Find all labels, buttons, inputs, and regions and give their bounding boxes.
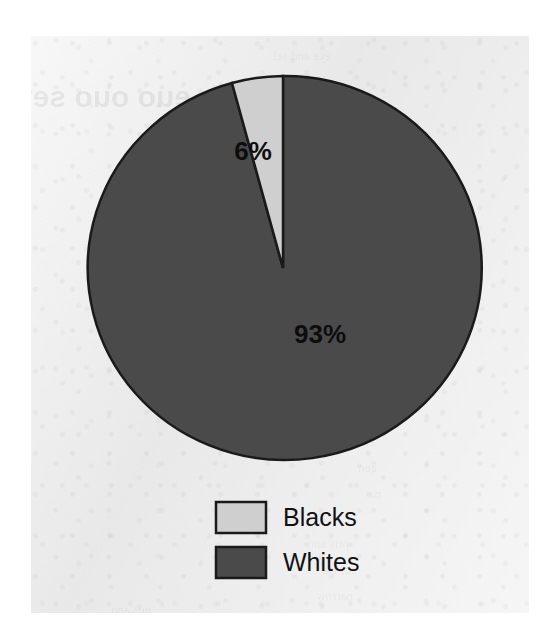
legend-item-blacks[interactable]: Blacks bbox=[216, 502, 357, 533]
pie-chart: 6% 93% Blacks Whites bbox=[31, 36, 529, 613]
chart-legend: Blacks Whites bbox=[216, 502, 359, 578]
legend-swatch-whites bbox=[216, 547, 266, 578]
scanned-page: eye and seleuo ouo sefnarrow vthe obthat… bbox=[31, 36, 529, 613]
pie-slice-whites[interactable] bbox=[88, 76, 482, 460]
legend-item-whites[interactable]: Whites bbox=[216, 547, 359, 578]
slice-label-blacks: 6% bbox=[234, 136, 272, 166]
legend-label-blacks: Blacks bbox=[283, 503, 357, 531]
slice-label-whites: 93% bbox=[294, 319, 346, 349]
legend-swatch-blacks bbox=[216, 502, 266, 533]
legend-label-whites: Whites bbox=[283, 548, 359, 576]
